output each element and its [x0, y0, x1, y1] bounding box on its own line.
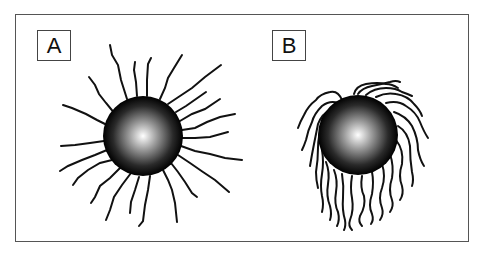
sphere-a [103, 96, 183, 176]
diagram-canvas [0, 0, 487, 254]
sphere-b [318, 95, 398, 175]
